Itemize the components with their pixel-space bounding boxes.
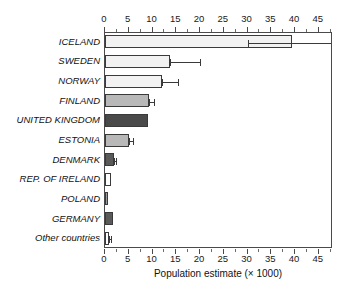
axis-tick-label: 45 xyxy=(306,13,330,24)
axis-tick-label: 45 xyxy=(306,253,330,264)
bar xyxy=(105,55,170,68)
error-bar-cap xyxy=(111,236,112,243)
axis-tick-label: 0 xyxy=(92,253,116,264)
bar xyxy=(105,153,114,166)
axis-tick-label: 5 xyxy=(116,13,140,24)
axis-tick-minor xyxy=(116,249,117,252)
error-bar-cap xyxy=(149,99,150,106)
category-label: FINLAND xyxy=(0,95,100,106)
axis-tick-label: 40 xyxy=(282,253,306,264)
category-label: SWEDEN xyxy=(0,55,100,66)
axis-tick-label: 40 xyxy=(282,13,306,24)
error-bar-cap xyxy=(248,40,249,47)
axis-tick-label: 25 xyxy=(211,13,235,24)
error-bar-cap xyxy=(200,59,201,66)
axis-tick-label: 30 xyxy=(235,253,259,264)
error-bar-cap xyxy=(154,99,155,106)
bar xyxy=(105,35,292,48)
bar xyxy=(105,192,108,205)
axis-tick-label: 10 xyxy=(140,253,164,264)
axis-tick-label: 0 xyxy=(92,13,116,24)
axis-tick-minor xyxy=(163,249,164,252)
axis-tick-minor xyxy=(187,249,188,252)
axis-tick-minor xyxy=(330,249,331,252)
plot-area xyxy=(104,32,332,248)
error-bar-cap xyxy=(133,138,134,145)
axis-tick-minor xyxy=(258,249,259,252)
bar xyxy=(105,114,148,127)
category-label: POLAND xyxy=(0,193,100,204)
axis-tick-minor xyxy=(235,249,236,252)
axis-tick-label: 30 xyxy=(235,13,259,24)
axis-tick-label: 25 xyxy=(211,253,235,264)
error-bar-cap xyxy=(116,158,117,165)
x-axis-title: Population estimate (× 1000) xyxy=(104,268,332,279)
category-label: ESTONIA xyxy=(0,134,100,145)
error-bar-cap xyxy=(170,59,171,66)
error-bar-cap xyxy=(162,79,163,86)
bar xyxy=(105,212,113,225)
bar-chart: 051015202530354045 ICELANDSWEDENNORWAYFI… xyxy=(0,0,350,288)
axis-tick-label: 35 xyxy=(258,253,282,264)
axis-tick-minor xyxy=(282,249,283,252)
axis-tick-label: 15 xyxy=(163,253,187,264)
error-bar-cap xyxy=(114,158,115,165)
axis-tick-minor xyxy=(306,249,307,252)
category-label: GERMANY xyxy=(0,213,100,224)
error-bar xyxy=(162,82,177,83)
axis-tick-label: 10 xyxy=(140,13,164,24)
category-label: REP. OF IRELAND xyxy=(0,173,100,184)
error-bar-cap xyxy=(129,138,130,145)
category-label: Other countries xyxy=(0,232,100,243)
category-label: ICELAND xyxy=(0,36,100,47)
axis-tick-label: 35 xyxy=(258,13,282,24)
bar xyxy=(105,173,111,186)
category-label: UNITED KINGDOM xyxy=(0,114,100,125)
error-bar xyxy=(170,62,200,63)
bar xyxy=(105,94,149,107)
category-label: NORWAY xyxy=(0,75,100,86)
bar xyxy=(105,75,162,88)
axis-tick-label: 20 xyxy=(187,253,211,264)
axis-tick-label: 15 xyxy=(163,13,187,24)
axis-tick-minor xyxy=(211,249,212,252)
axis-tick-label: 20 xyxy=(187,13,211,24)
error-bar xyxy=(248,43,333,44)
error-bar-cap xyxy=(178,79,179,86)
category-label: DENMARK xyxy=(0,154,100,165)
bar xyxy=(105,134,129,147)
axis-tick-label: 5 xyxy=(116,253,140,264)
axis-tick-minor xyxy=(140,249,141,252)
